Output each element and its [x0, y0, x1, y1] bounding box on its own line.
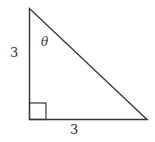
angle-label: θ	[41, 35, 49, 49]
vertical-side-label: 3	[10, 45, 18, 60]
right-angle-marker	[30, 103, 47, 120]
triangle-diagram: 3 θ 3	[0, 0, 155, 142]
right-triangle	[30, 9, 148, 120]
horizontal-side-label: 3	[70, 122, 78, 137]
